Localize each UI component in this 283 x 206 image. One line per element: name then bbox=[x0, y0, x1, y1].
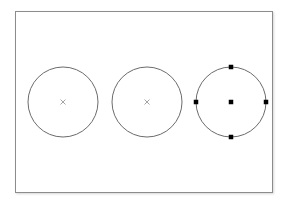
circle-2[interactable] bbox=[112, 67, 182, 137]
circle-1[interactable] bbox=[28, 67, 98, 137]
circle-3-grip-right[interactable] bbox=[264, 100, 269, 105]
circle-3-grip-bottom[interactable] bbox=[229, 135, 234, 140]
circle-1-center-marker bbox=[61, 100, 66, 105]
canvas-vector-layer[interactable] bbox=[16, 12, 274, 194]
circle-3-grip-top[interactable] bbox=[229, 65, 234, 70]
circle-3-grip-center[interactable] bbox=[229, 100, 234, 105]
circle-3[interactable] bbox=[194, 65, 269, 140]
drawing-canvas[interactable] bbox=[15, 11, 273, 193]
circle-3-grip-left[interactable] bbox=[194, 100, 199, 105]
app-root bbox=[0, 0, 283, 206]
circle-2-center-marker bbox=[145, 100, 150, 105]
